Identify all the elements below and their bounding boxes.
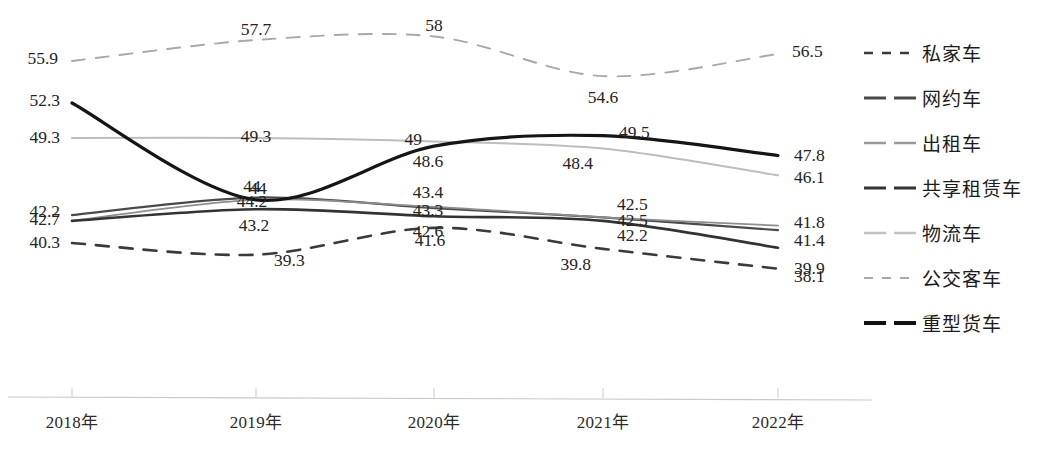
- data-label: 43.3: [413, 202, 444, 220]
- x-tick-label-4: 2022年: [752, 408, 805, 433]
- x-tick-label-3: 2021年: [577, 408, 630, 433]
- data-label: 42.2: [617, 227, 648, 245]
- data-label: 58: [425, 17, 443, 35]
- data-label: 56.5: [792, 43, 823, 61]
- legend-line-icon: [862, 271, 918, 285]
- data-label: 42.7: [29, 211, 60, 229]
- data-label: 48.4: [562, 155, 593, 173]
- data-label: 40.3: [29, 234, 60, 252]
- legend-line-icon: [862, 136, 918, 150]
- legend-item-4[interactable]: 物流车: [862, 210, 1038, 255]
- legend-line-icon: [862, 316, 918, 330]
- data-label: 47.8: [794, 147, 825, 165]
- legend-label: 网约车: [918, 84, 982, 111]
- x-tick-label-1: 2019年: [230, 408, 283, 433]
- chart-legend: 私家车网约车出租车共享租赁车物流车公交客车重型货车: [862, 30, 1038, 345]
- data-label: 41.4: [794, 232, 825, 250]
- legend-line-icon: [862, 181, 918, 195]
- legend-label: 私家车: [918, 39, 982, 66]
- data-label: 43.4: [413, 184, 444, 202]
- legend-label: 重型货车: [918, 309, 1002, 336]
- data-label: 49: [405, 131, 423, 149]
- data-label: 54.6: [588, 89, 619, 107]
- data-label: 43.2: [239, 217, 270, 235]
- data-label: 55.9: [27, 50, 58, 68]
- legend-label: 公交客车: [918, 264, 1002, 291]
- legend-line-icon: [862, 46, 918, 60]
- legend-line-icon: [862, 226, 918, 240]
- data-label: 39.8: [560, 256, 591, 274]
- data-label: 38.1: [794, 268, 825, 286]
- legend-item-0[interactable]: 私家车: [862, 30, 1038, 75]
- x-tick-label-0: 2018年: [46, 408, 99, 433]
- data-label: 57.7: [241, 21, 272, 39]
- x-tick-label-2: 2020年: [408, 408, 461, 433]
- legend-item-5[interactable]: 公交客车: [862, 255, 1038, 300]
- data-label: 44.2: [237, 193, 268, 211]
- data-label: 48.6: [413, 153, 444, 171]
- legend-item-3[interactable]: 共享租赁车: [862, 165, 1038, 210]
- legend-item-1[interactable]: 网约车: [862, 75, 1038, 120]
- data-label: 52.3: [29, 92, 60, 110]
- data-label: 46.1: [794, 169, 825, 187]
- data-label: 49.5: [619, 124, 650, 142]
- data-label: 41.6: [415, 232, 446, 250]
- legend-line-icon: [862, 91, 918, 105]
- x-axis: [8, 388, 872, 400]
- series-line-5: [72, 34, 778, 76]
- data-label: 41.8: [794, 214, 825, 232]
- legend-label: 物流车: [918, 219, 982, 246]
- data-label: 39.3: [274, 252, 305, 270]
- line-chart: 2018年2019年2020年2021年2022年 55.957.75854.6…: [0, 0, 1038, 457]
- data-label: 49.3: [29, 129, 60, 147]
- legend-item-2[interactable]: 出租车: [862, 120, 1038, 165]
- legend-label: 共享租赁车: [918, 174, 1022, 201]
- legend-label: 出租车: [918, 129, 982, 156]
- data-label: 49.3: [241, 128, 272, 146]
- legend-item-6[interactable]: 重型货车: [862, 300, 1038, 345]
